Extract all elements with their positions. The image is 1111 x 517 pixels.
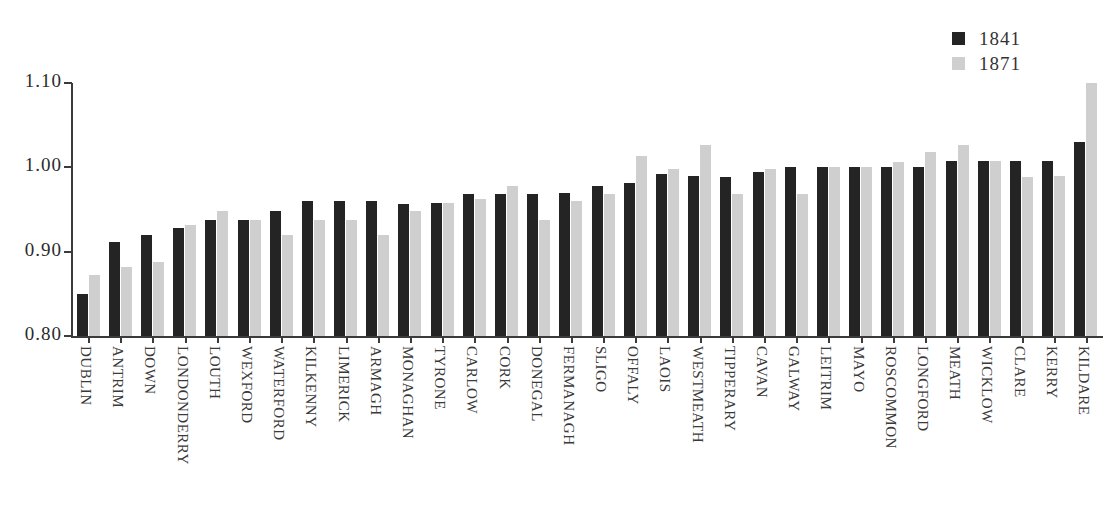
x-axis-tick-label: KILKENNY [302,346,319,427]
bar [173,228,184,336]
x-axis-tick [828,336,830,343]
bar [250,220,261,336]
bar [785,167,796,336]
x-axis-tick [893,336,895,343]
bar [753,172,764,336]
x-axis-tick-label: CLARE [1011,346,1028,398]
x-axis-tick [88,336,90,343]
x-axis-tick [152,336,154,343]
x-axis-tick [796,336,798,343]
bar [893,162,904,336]
bar [1022,177,1033,336]
bar [185,225,196,336]
x-axis-tick [217,336,219,343]
bar [592,186,603,336]
y-axis-tick [64,335,72,337]
bar [700,145,711,336]
x-axis-tick-label: MAYO [850,346,867,392]
x-axis-tick [635,336,637,343]
bar [688,176,699,336]
bar [109,242,120,336]
bar [1042,161,1053,336]
bar [817,167,828,336]
bar [475,199,486,336]
x-axis-tick [764,336,766,343]
x-axis-tick [249,336,251,343]
bar [507,186,518,336]
bar [765,169,776,336]
y-axis-tick-label: 0.90 [25,238,62,260]
bar-chart: 1841 1871 1.101.000.900.80 DUBLINANTRIMD… [0,0,1111,517]
bar [913,167,924,336]
y-axis-labels: 1.101.000.900.80 [0,83,62,337]
y-axis-tick-label: 1.10 [25,70,62,92]
bar [443,203,454,336]
y-axis-tick [64,166,72,168]
bar [282,235,293,336]
bar [1054,176,1065,336]
bar [861,167,872,336]
bar [205,220,216,336]
bar [978,161,989,336]
x-axis-tick [120,336,122,343]
bar [314,220,325,336]
legend-swatch-1871 [952,57,965,70]
bar [925,152,936,336]
x-axis-tick [281,336,283,343]
x-axis-tick [700,336,702,343]
x-axis-tick-label: KERRY [1043,346,1060,399]
x-axis-tick-label: DONEGAL [528,346,545,422]
bar [881,167,892,336]
x-axis-tick-label: LONGFORD [914,346,931,432]
bar [398,204,409,336]
x-axis-tick [410,336,412,343]
x-axis-tick-label: DUBLIN [77,346,94,406]
bar [495,194,506,336]
bar [732,194,743,336]
legend-label-1871: 1871 [979,53,1021,75]
x-axis-tick-label: MEATH [946,346,963,400]
bar [410,211,421,336]
bar [604,194,615,336]
bar [121,267,132,336]
x-axis-tick [667,336,669,343]
y-axis-tick [64,251,72,253]
x-axis-tick-label: LAOIS [656,346,673,393]
x-axis-tick [346,336,348,343]
bar [366,201,377,336]
x-axis-tick-label: ROSCOMMON [882,346,899,449]
plot-area [72,83,1102,336]
bar [656,174,667,336]
x-axis-tick [989,336,991,343]
x-axis-tick-label: GALWAY [785,346,802,412]
bar [668,169,679,336]
bar [990,161,1001,336]
y-axis-tick [64,82,72,84]
legend-label-1841: 1841 [979,28,1021,50]
chart-legend: 1841 1871 [952,26,1021,76]
bar [431,203,442,336]
bar [1074,142,1085,336]
x-axis-tick-label: MONAGHAN [399,346,416,439]
bar [527,194,538,336]
x-axis-tick [957,336,959,343]
bar [334,201,345,336]
x-axis-tick-label: WEXFORD [238,346,255,424]
x-axis-tick-label: LIMERICK [335,346,352,423]
x-axis-tick-label: WESTMEATH [689,346,706,443]
x-axis-tick-label: TYRONE [431,346,448,410]
bar [946,161,957,336]
bar [797,194,808,336]
bar [217,211,228,336]
x-axis-tick [539,336,541,343]
x-axis-tick [474,336,476,343]
bar [624,183,635,336]
bar [1010,161,1021,336]
x-axis-tick-label: LEITRIM [817,346,834,410]
x-axis-tick-label: FERMANAGH [560,346,577,446]
x-axis-tick [1022,336,1024,343]
x-axis-tick-label: CORK [496,346,513,390]
bar [463,194,474,336]
bar [720,177,731,336]
x-axis-tick-label: KILDARE [1075,346,1092,415]
